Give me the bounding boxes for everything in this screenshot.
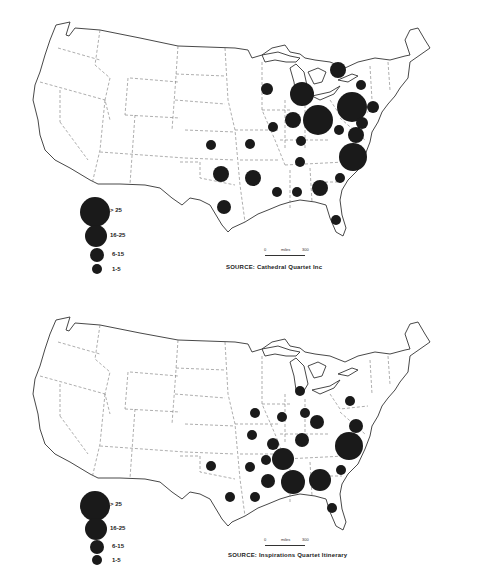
legend-circle-icon [90,540,104,554]
scale-bar-top [265,253,305,256]
data-bubble [292,187,302,197]
data-bubble [213,166,229,182]
legend-label-16-25: 16-25 [110,525,125,531]
legend-circle-icon [85,518,107,540]
data-bubble [348,127,364,143]
legend-circle-icon [92,555,102,565]
data-bubble [309,469,331,491]
legend-label-6-15: 6-15 [112,543,124,549]
data-bubble [285,112,301,128]
source-text: Inspirations Quartet Itinerary [259,552,347,558]
data-bubble [267,438,279,450]
data-bubble [261,474,275,488]
scale-unit: miles [281,537,290,542]
legend-label-1-5: 1-5 [112,266,121,272]
legend-label-16-25: 16-25 [110,232,125,238]
scale-end: 300 [302,247,309,252]
data-bubble [295,157,305,167]
legend-label-gt25: > 25 [110,501,122,507]
legend-circle-icon [85,225,107,247]
data-bubble [295,386,305,396]
data-bubble [247,430,257,440]
legend-circle-icon [80,197,110,227]
source-text: Cathedral Quartet Inc [257,264,322,270]
data-bubble [335,432,363,460]
data-bubble [272,448,294,470]
data-bubble [331,215,341,225]
scale-end: 300 [302,537,309,542]
data-bubble [290,82,314,106]
data-bubble [250,408,260,418]
data-bubble [250,492,260,502]
data-bubble [206,140,216,150]
data-bubble [336,465,346,475]
scale-bar-bottom [265,543,305,546]
legend-circle-icon [90,248,104,262]
data-bubble [217,200,231,214]
data-bubble [296,136,306,146]
bubble-layer-top [0,0,495,290]
data-bubble [245,139,255,149]
data-bubble [356,80,366,90]
map-panel-bottom: > 25 16-25 6-15 1-5 0 miles 300 SOURCE: … [0,290,495,580]
data-bubble [300,408,310,418]
data-bubble [261,455,271,465]
source-label: SOURCE: [226,264,255,270]
data-bubble [272,187,282,197]
legend-label-1-5: 1-5 [112,557,121,563]
map-panel-top: > 25 16-25 6-15 1-5 0 miles 300 SOURCE: … [0,0,495,290]
data-bubble [312,180,328,196]
data-bubble [281,470,305,494]
legend-label-6-15: 6-15 [112,251,124,257]
data-bubble [206,461,216,471]
data-bubble [327,503,337,513]
data-bubble [330,62,346,78]
data-bubble [335,173,345,183]
source-caption-bottom: SOURCE: Inspirations Quartet Itinerary [228,552,347,558]
bubble-layer-bottom [0,290,495,580]
legend-circle-icon [80,491,110,521]
data-bubble [367,101,379,113]
scale-unit: miles [281,247,290,252]
data-bubble [310,415,324,429]
data-bubble [345,396,355,406]
data-bubble [339,143,367,171]
legend-label-gt25: > 25 [110,207,122,213]
data-bubble [261,83,273,95]
data-bubble [225,492,235,502]
legend-circle-icon [92,264,102,274]
scale-start: 0 [264,537,266,542]
data-bubble [277,412,287,422]
data-bubble [303,105,333,135]
data-bubble [334,125,344,135]
scale-start: 0 [264,247,266,252]
source-label: SOURCE: [228,552,257,558]
data-bubble [349,419,363,433]
source-caption-top: SOURCE: Cathedral Quartet Inc [226,264,322,270]
data-bubble [268,122,278,132]
data-bubble [295,433,309,447]
data-bubble [245,170,261,186]
data-bubble [356,117,368,129]
data-bubble [245,462,255,472]
